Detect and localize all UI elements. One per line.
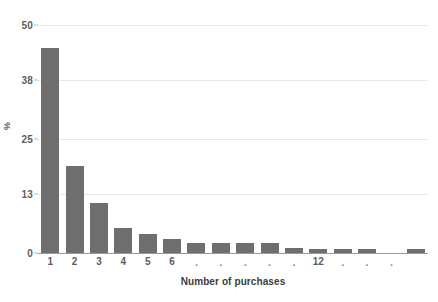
bar [66, 166, 84, 253]
x-tick-label: 3 [96, 256, 102, 267]
bar [90, 203, 108, 253]
bar [114, 228, 132, 253]
x-tick-label: . [219, 256, 222, 268]
x-tick-label: . [390, 256, 393, 268]
x-tick-label: 1 [47, 256, 53, 267]
y-tick-mark [34, 79, 38, 80]
bar [41, 48, 59, 253]
x-tick-label: . [341, 256, 344, 268]
bar [261, 243, 279, 253]
axis-baseline [38, 253, 428, 254]
bar [358, 249, 376, 253]
bar [334, 249, 352, 253]
bar-series [38, 25, 428, 253]
bar [163, 239, 181, 253]
y-tick-mark [34, 25, 38, 26]
y-tick-label: 38 [21, 74, 33, 85]
bar [212, 243, 230, 253]
x-tick-label: . [195, 256, 198, 268]
bar [407, 249, 425, 253]
y-tick-label: 50 [21, 20, 33, 31]
y-axis-title: % [2, 122, 12, 130]
bar [309, 249, 327, 253]
y-tick-mark [34, 253, 38, 254]
y-tick-mark [34, 193, 38, 194]
y-tick-label: 25 [21, 134, 33, 145]
bar [285, 248, 303, 253]
y-tick-label: 0 [27, 248, 33, 259]
x-tick-label: 4 [121, 256, 127, 267]
plot-area: 013253850 [38, 25, 428, 253]
x-tick-label: . [268, 256, 271, 268]
bar [139, 234, 157, 253]
x-tick-label: . [366, 256, 369, 268]
bar [187, 243, 205, 253]
x-axis-title: Number of purchases [38, 276, 428, 287]
x-tick-label: 5 [145, 256, 151, 267]
bar [236, 243, 254, 253]
x-tick-label: 12 [313, 256, 324, 267]
x-tick-label: 6 [169, 256, 175, 267]
x-tick-label: 2 [72, 256, 78, 267]
x-axis-ticks: 123456.....12... [38, 256, 428, 272]
bar-chart: % 013253850 123456.....12... Number of p… [0, 0, 438, 302]
x-tick-label: . [292, 256, 295, 268]
x-tick-label: . [244, 256, 247, 268]
y-tick-label: 13 [21, 188, 33, 199]
y-tick-mark [34, 139, 38, 140]
